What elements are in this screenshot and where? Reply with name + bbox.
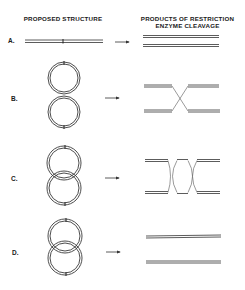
structure-c-overlapping-circles [47, 145, 81, 206]
products-c-double-crossover [145, 160, 220, 194]
structure-d-catenane [48, 218, 82, 276]
structure-b-figure-eight [48, 61, 80, 129]
products-d [146, 235, 221, 263]
diagram-canvas [0, 0, 245, 290]
products-a [143, 36, 219, 47]
products-b-single-crossover [144, 85, 220, 112]
structure-a-linear-dna [25, 39, 103, 44]
